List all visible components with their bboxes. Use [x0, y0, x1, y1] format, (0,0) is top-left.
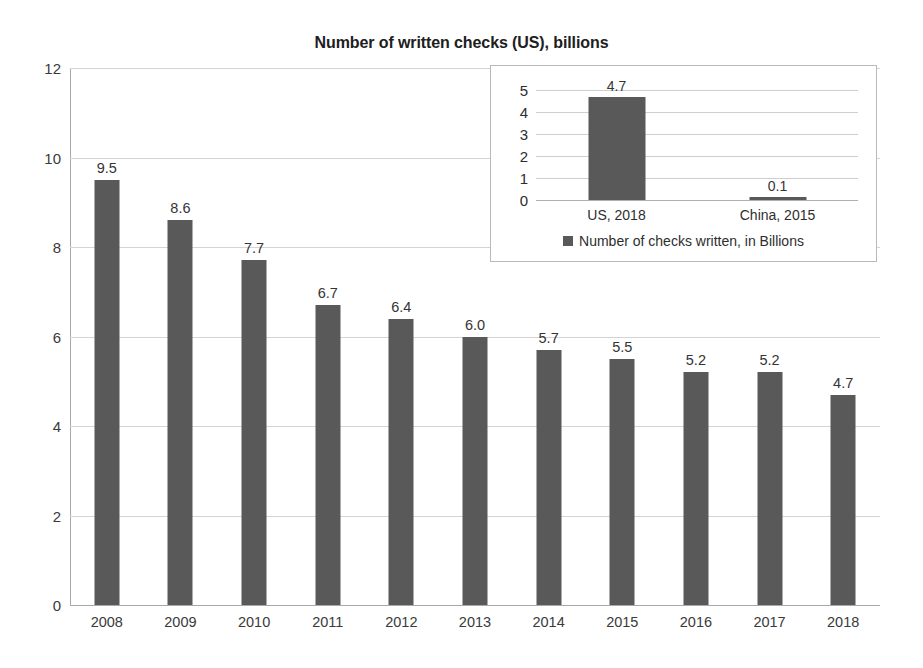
inset-bar — [588, 97, 645, 200]
inset-bar-value-label: 0.1 — [768, 178, 787, 194]
inset-chart: 012345 4.7US, 20180.1China, 2015 Number … — [490, 65, 877, 262]
main-bar-group: 6.42012 — [365, 68, 439, 605]
inset-bar — [749, 197, 806, 200]
main-bar — [94, 180, 119, 605]
inset-y-axis-tick: 2 — [520, 148, 528, 165]
chart-screenshot: Number of written checks (US), billions … — [0, 0, 923, 668]
main-x-axis-tick: 2016 — [680, 614, 712, 630]
inset-chart-legend: Number of checks written, in Billions — [491, 233, 876, 249]
inset-chart-plot-area: 012345 4.7US, 20180.1China, 2015 — [536, 90, 858, 200]
main-x-axis-tick: 2013 — [459, 614, 491, 630]
main-bar-value-label: 6.7 — [318, 285, 338, 301]
legend-swatch-icon — [563, 236, 573, 246]
inset-y-axis-tick: 1 — [520, 170, 528, 187]
inset-y-axis-tick: 4 — [520, 104, 528, 121]
main-bar-value-label: 5.2 — [759, 352, 779, 368]
main-x-axis-tick: 2009 — [164, 614, 196, 630]
main-bar — [168, 220, 193, 605]
main-y-axis-tick: 12 — [44, 60, 61, 77]
main-bar — [831, 395, 856, 605]
main-x-axis-tick: 2018 — [827, 614, 859, 630]
main-y-axis-tick: 10 — [44, 149, 61, 166]
main-bar-value-label: 7.7 — [244, 240, 264, 256]
main-x-axis-tick: 2014 — [532, 614, 564, 630]
main-x-axis-tick: 2015 — [606, 614, 638, 630]
main-bar-value-label: 9.5 — [97, 160, 117, 176]
main-y-axis-tick: 8 — [53, 239, 61, 256]
main-bar-value-label: 6.0 — [465, 317, 485, 333]
inset-y-axis-tick: 5 — [520, 82, 528, 99]
main-y-axis-tick: 2 — [53, 507, 61, 524]
main-bar-value-label: 8.6 — [170, 200, 190, 216]
main-x-axis-tick: 2011 — [312, 614, 343, 630]
main-bar-group: 8.62009 — [144, 68, 218, 605]
main-bar-group: 7.72010 — [217, 68, 291, 605]
main-bar — [757, 372, 782, 605]
main-bar — [610, 359, 635, 605]
main-bar — [536, 350, 561, 605]
main-bar — [389, 319, 414, 605]
main-x-axis-tick: 2017 — [753, 614, 785, 630]
inset-legend-label: Number of checks written, in Billions — [579, 233, 804, 249]
main-chart-title: Number of written checks (US), billions — [0, 34, 923, 52]
inset-x-axis-tick: US, 2018 — [587, 207, 645, 223]
main-bar-value-label: 4.7 — [833, 375, 853, 391]
main-bar-group: 6.72011 — [291, 68, 365, 605]
main-y-axis-tick: 6 — [53, 328, 61, 345]
main-bar — [462, 337, 487, 606]
inset-x-axis-tick: China, 2015 — [740, 207, 816, 223]
inset-bar-group: 0.1China, 2015 — [697, 90, 858, 200]
main-bar — [315, 305, 340, 605]
main-bar-group: 9.52008 — [70, 68, 144, 605]
main-bar-value-label: 6.4 — [391, 299, 411, 315]
main-bar-value-label: 5.5 — [612, 339, 632, 355]
inset-x-axis-line — [536, 200, 858, 201]
main-y-axis-tick: 4 — [53, 418, 61, 435]
main-y-axis-tick: 0 — [53, 597, 61, 614]
main-bar — [242, 260, 267, 605]
inset-bar-group: 4.7US, 2018 — [536, 90, 697, 200]
main-bar-value-label: 5.7 — [539, 330, 559, 346]
main-bar-value-label: 5.2 — [686, 352, 706, 368]
main-x-axis-tick: 2010 — [238, 614, 270, 630]
inset-y-axis-tick: 0 — [520, 192, 528, 209]
inset-bar-value-label: 4.7 — [607, 78, 626, 94]
main-x-axis-tick: 2008 — [91, 614, 123, 630]
main-x-axis-tick: 2012 — [385, 614, 417, 630]
inset-y-axis-tick: 3 — [520, 126, 528, 143]
main-x-axis-line — [70, 605, 880, 606]
main-bar — [683, 372, 708, 605]
